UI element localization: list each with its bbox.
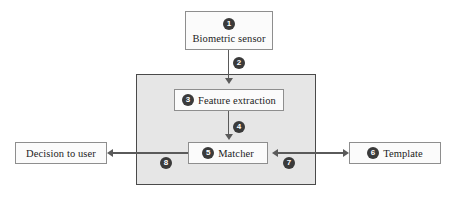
node-feature-extraction-label: Feature extraction xyxy=(198,95,276,106)
badge-1: 1 xyxy=(223,18,235,30)
node-decision-to-user-label: Decision to user xyxy=(26,148,96,159)
diagram-canvas: 1 Biometric sensor 2 3 Feature extractio… xyxy=(0,0,456,202)
node-feature-extraction[interactable]: 3 Feature extraction xyxy=(174,89,284,111)
badge-6: 6 xyxy=(367,147,379,159)
badge-2: 2 xyxy=(233,57,245,69)
badge-3: 3 xyxy=(182,94,194,106)
badge-8: 8 xyxy=(160,157,172,169)
edge-matcher-to-decision-line xyxy=(113,152,188,153)
edge-template-matcher-arrowhead-right xyxy=(343,149,349,157)
edge-template-matcher-arrowhead-left xyxy=(272,149,278,157)
node-template[interactable]: 6 Template xyxy=(349,142,441,164)
edge-template-matcher-line xyxy=(278,152,343,153)
badge-7: 7 xyxy=(283,157,295,169)
edge-sensor-to-panel-arrowhead xyxy=(225,78,233,84)
node-biometric-sensor[interactable]: 1 Biometric sensor xyxy=(185,11,273,50)
node-matcher[interactable]: 5 Matcher xyxy=(188,142,268,164)
node-biometric-sensor-label: Biometric sensor xyxy=(192,33,265,44)
edge-feature-to-matcher-arrowhead xyxy=(225,134,233,140)
edge-sensor-to-panel-line xyxy=(228,50,229,80)
node-decision-to-user[interactable]: Decision to user xyxy=(15,142,107,164)
edge-matcher-to-decision-arrowhead xyxy=(107,149,113,157)
badge-4: 4 xyxy=(233,121,245,133)
node-matcher-label: Matcher xyxy=(218,148,254,159)
badge-5: 5 xyxy=(202,147,214,159)
edge-feature-to-matcher-line xyxy=(228,111,229,136)
node-template-label: Template xyxy=(383,148,423,159)
